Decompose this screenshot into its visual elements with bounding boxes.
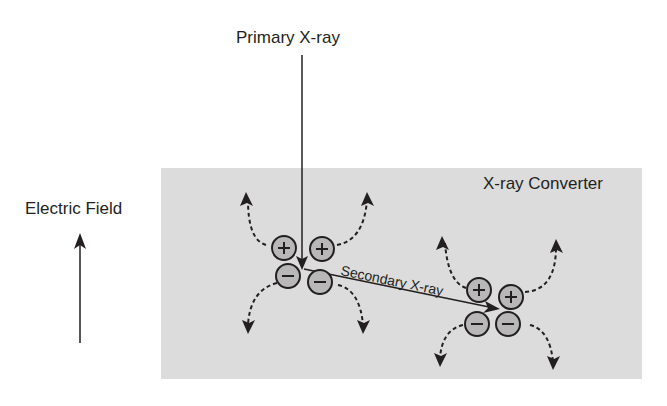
right-arrowheads	[434, 236, 563, 370]
right-carrier-paths	[440, 243, 556, 362]
left-carrier-paths	[248, 200, 367, 325]
primary-xray-arrow	[296, 55, 308, 270]
electric-field-arrow	[74, 233, 86, 343]
secondary-xray-label: Secondary X-ray	[339, 262, 444, 298]
diagram-canvas: Secondary X-ray	[0, 0, 667, 406]
left-arrowheads	[240, 192, 374, 334]
